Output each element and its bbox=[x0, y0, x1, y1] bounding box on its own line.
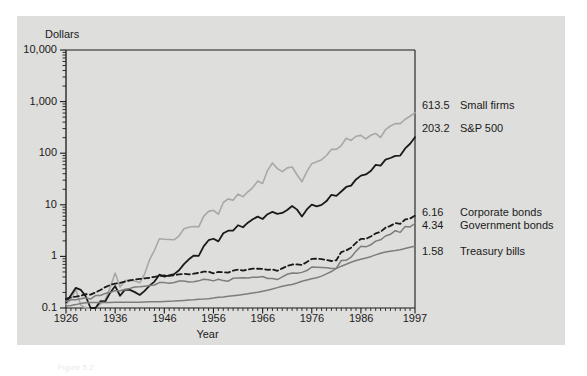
series-end-name: Treasury bills bbox=[460, 245, 525, 257]
y-tick-label: 1,000 bbox=[29, 96, 57, 107]
series-line-government-bonds bbox=[66, 224, 415, 302]
series-end-value: 203.2 bbox=[422, 122, 450, 134]
series-end-value: 613.5 bbox=[422, 99, 450, 111]
series-end-value: 6.16 bbox=[422, 206, 443, 218]
x-tick-label: 1986 bbox=[331, 313, 391, 324]
x-tick-label: 1997 bbox=[385, 313, 445, 324]
series-end-value: 4.34 bbox=[422, 219, 443, 231]
data-series-lines bbox=[66, 113, 415, 308]
series-end-name: Government bonds bbox=[460, 219, 554, 231]
series-end-value: 1.58 bbox=[422, 245, 443, 257]
series-end-name: Corporate bonds bbox=[460, 206, 542, 218]
y-tick-label: 10,000 bbox=[23, 44, 57, 55]
series-line-corporate-bonds bbox=[66, 216, 415, 299]
series-line-treasury-bills bbox=[66, 246, 415, 306]
x-axis-title: Year bbox=[0, 328, 415, 340]
y-tick-label: 1 bbox=[51, 250, 57, 261]
y-tick-label: 100 bbox=[39, 147, 57, 158]
y-axis-ticks bbox=[60, 50, 66, 308]
axis-frame bbox=[66, 50, 415, 308]
y-tick-label: 10 bbox=[45, 199, 57, 210]
figure-caption: Figure 5.2 bbox=[58, 364, 94, 371]
series-end-name: S&P 500 bbox=[460, 122, 503, 134]
series-end-name: Small firms bbox=[460, 99, 514, 111]
